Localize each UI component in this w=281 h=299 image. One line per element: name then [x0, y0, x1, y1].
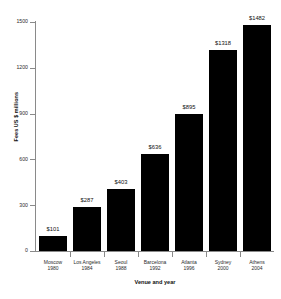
bar-value-label: $636 [135, 145, 175, 151]
y-axis-title: Fees US $ millions [14, 62, 19, 172]
x-axis-tick [138, 252, 139, 257]
x-axis-tick [70, 252, 71, 257]
x-axis-title: Venue and year [36, 280, 274, 286]
bar [73, 207, 100, 251]
bar-value-label: $1318 [203, 41, 243, 47]
bar-value-label: $1482 [237, 16, 277, 22]
y-axis-tick-label: 1500 [6, 19, 28, 24]
bar-value-label: $403 [101, 180, 141, 186]
x-axis-tick [104, 252, 105, 257]
plot-area [36, 18, 274, 251]
y-axis-tick [30, 159, 35, 160]
y-axis-tick [30, 22, 35, 23]
bar [141, 154, 168, 251]
x-axis-tick [240, 252, 241, 257]
bar [243, 25, 270, 251]
bar [107, 189, 134, 251]
y-axis-tick-label: 0 [6, 248, 28, 253]
x-axis-category-label: Athens2004 [233, 259, 281, 271]
bar [39, 236, 66, 251]
bar [175, 114, 202, 251]
y-axis-tick [30, 114, 35, 115]
category-year: 2004 [233, 265, 281, 271]
bar-value-label: $895 [169, 105, 209, 111]
x-axis-tick [206, 252, 207, 257]
y-axis-tick [30, 205, 35, 206]
y-axis-tick-label: 300 [6, 203, 28, 208]
bar [209, 50, 236, 251]
bar-chart: 030060090012001500 $101$287$403$636$895$… [0, 0, 281, 299]
y-axis-tick [30, 68, 35, 69]
x-axis-tick [172, 252, 173, 257]
bar-value-label: $287 [67, 198, 107, 204]
y-axis-tick [30, 251, 35, 252]
bar-value-label: $101 [33, 227, 73, 233]
